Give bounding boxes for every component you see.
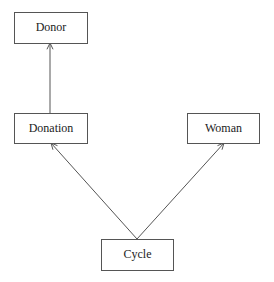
nodes-layer: DonorDonationWomanCycle (15, 13, 260, 271)
node-woman[interactable]: Woman (188, 114, 260, 144)
edge-cycle-to-woman (137, 143, 224, 239)
node-cycle[interactable]: Cycle (102, 240, 174, 271)
node-label: Donation (29, 121, 74, 135)
edge-line (137, 143, 224, 239)
edge-donation-to-donor (47, 43, 53, 113)
node-label: Woman (205, 121, 242, 135)
node-donation[interactable]: Donation (15, 114, 88, 144)
node-label: Cycle (124, 247, 152, 261)
diagram-canvas: DonorDonationWomanCycle (0, 0, 274, 282)
node-donor[interactable]: Donor (15, 13, 88, 44)
edge-line (51, 143, 137, 239)
node-label: Donor (36, 20, 67, 34)
edge-cycle-to-donation (51, 143, 137, 239)
